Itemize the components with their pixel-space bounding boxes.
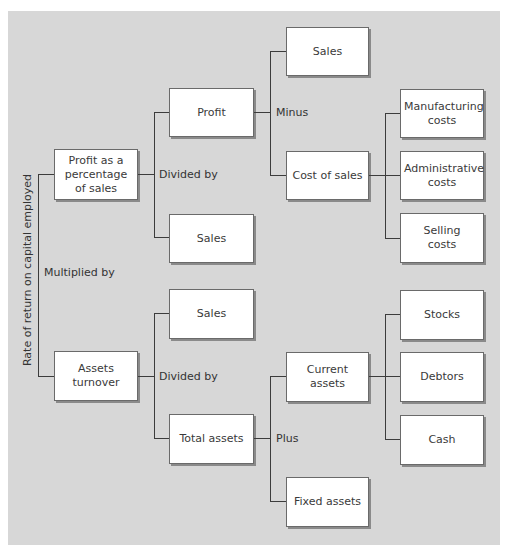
root-label: Rate of return on capital employed	[21, 174, 34, 366]
node-label: Stocks	[424, 308, 460, 322]
operator-minus: Minus	[276, 106, 308, 119]
node-debtors: Debtors	[400, 352, 484, 402]
connector	[154, 237, 169, 238]
node-label: Sales	[197, 307, 226, 321]
operator-divided-by: Divided by	[159, 370, 218, 383]
node-current-assets: Current assets	[286, 352, 369, 402]
connector	[270, 376, 286, 377]
node-label: Debtors	[420, 370, 464, 384]
node-label: Profit as a percentage of sales	[59, 154, 133, 196]
connector	[154, 438, 169, 439]
node-label: Manufacturing costs	[404, 100, 480, 128]
connector	[138, 376, 154, 377]
node-assets-turnover: Assets turnover	[54, 351, 138, 401]
node-stocks: Stocks	[400, 290, 484, 340]
node-label: Administrative costs	[404, 162, 480, 190]
root-connector	[38, 174, 39, 377]
node-sales: Sales	[169, 214, 254, 263]
connector	[154, 313, 169, 314]
node-sales-top: Sales	[286, 27, 369, 76]
connector	[385, 113, 400, 114]
connector	[270, 175, 286, 176]
operator-multiplied-by: Multiplied by	[44, 266, 115, 279]
node-manufacturing-costs: Manufacturing costs	[400, 89, 484, 138]
node-selling-costs: Selling costs	[400, 213, 484, 263]
node-label: Assets turnover	[66, 362, 126, 390]
node-label: Selling costs	[422, 224, 462, 252]
node-label: Fixed assets	[294, 495, 361, 509]
node-sales: Sales	[169, 289, 254, 339]
node-label: Profit	[197, 106, 226, 120]
operator-plus: Plus	[276, 432, 298, 445]
connector	[270, 51, 271, 176]
node-label: Total assets	[179, 432, 243, 446]
operator-divided-by: Divided by	[159, 168, 218, 181]
connector	[385, 113, 386, 239]
node-cost-of-sales: Cost of sales	[286, 151, 369, 200]
node-administrative-costs: Administrative costs	[400, 151, 484, 200]
node-profit-percentage: Profit as a percentage of sales	[54, 149, 138, 200]
node-label: Cost of sales	[292, 169, 362, 183]
connector	[154, 112, 169, 113]
connector	[154, 112, 155, 238]
connector	[38, 376, 54, 377]
node-cash: Cash	[400, 415, 484, 465]
connector	[385, 314, 400, 315]
connector	[254, 438, 271, 439]
connector	[138, 174, 154, 175]
node-label: Sales	[313, 45, 342, 59]
connector	[38, 174, 54, 175]
node-label: Sales	[197, 232, 226, 246]
connector	[270, 501, 286, 502]
connector	[270, 51, 286, 52]
node-label: Current assets	[290, 363, 365, 391]
node-label: Cash	[428, 433, 455, 447]
node-total-assets: Total assets	[169, 414, 254, 464]
connector	[385, 314, 386, 440]
connector	[270, 376, 271, 502]
connector	[385, 439, 400, 440]
connector	[385, 238, 400, 239]
node-profit: Profit	[169, 88, 254, 137]
node-fixed-assets: Fixed assets	[286, 477, 369, 527]
connector	[154, 313, 155, 439]
connector	[254, 112, 271, 113]
